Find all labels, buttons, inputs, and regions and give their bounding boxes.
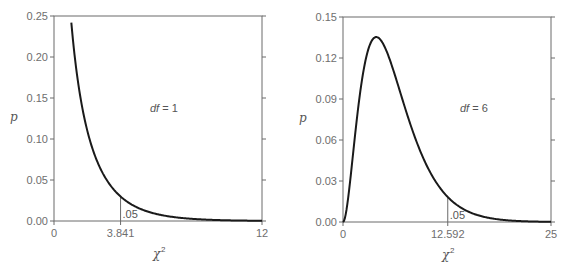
x-tick-label: 0: [340, 228, 346, 240]
y-tick-label: 0.09: [316, 93, 337, 105]
y-tick-label: 0.20: [27, 51, 48, 63]
y-axis-label: p: [10, 110, 18, 124]
y-tick-label: 0.15: [27, 92, 48, 104]
pdf-curve: [343, 37, 551, 222]
critical-area-label: .05: [123, 208, 138, 220]
pdf-curve: [71, 23, 262, 221]
y-tick-label: 0.03: [316, 175, 337, 187]
y-axis-ticks: 0.000.030.060.090.120.15: [316, 11, 555, 228]
df-value: = 1: [159, 102, 178, 114]
y-tick-label: 0.05: [27, 174, 48, 186]
x-axis-label-superscript: 2: [450, 246, 455, 255]
x-axis-label: χ 2: [152, 245, 166, 261]
y-tick-label: 0.25: [27, 10, 48, 22]
x-axis-ticks: 012.59225: [340, 222, 557, 240]
x-axis-label: χ 2: [441, 246, 455, 262]
x-tick-label: 3.841: [107, 227, 135, 239]
y-axis-label: p: [299, 111, 307, 125]
x-axis-label-chi: χ: [152, 247, 161, 261]
x-axis-label-superscript: 2: [161, 245, 166, 254]
chart-panel-df1: 0.000.050.100.150.200.25 03.84112 .05 df…: [10, 10, 268, 261]
chi-square-figure: 0.000.050.100.150.200.25 03.84112 .05 df…: [0, 0, 570, 269]
df-annotation: df = 1: [150, 102, 178, 114]
x-axis-label-chi: χ: [441, 248, 450, 262]
x-tick-label: 25: [545, 228, 557, 240]
y-tick-label: 0.15: [316, 11, 337, 23]
y-tick-label: 0.00: [27, 215, 48, 227]
x-tick-label: 0: [51, 227, 57, 239]
y-tick-label: 0.12: [316, 52, 337, 64]
plot-frame: [343, 17, 551, 222]
critical-area-label: .05: [450, 209, 465, 221]
y-tick-label: 0.06: [316, 134, 337, 146]
y-tick-label: 0.00: [316, 216, 337, 228]
x-tick-label: 12.592: [431, 228, 465, 240]
x-tick-label: 12: [256, 227, 268, 239]
x-axis-ticks: 03.84112: [51, 221, 268, 239]
df-annotation: df = 6: [460, 102, 488, 114]
chart-panel-df6: 0.000.030.060.090.120.15 012.59225 .05 d…: [299, 11, 557, 262]
y-axis-ticks: 0.000.050.100.150.200.25: [27, 10, 266, 227]
df-value: = 6: [469, 102, 488, 114]
y-tick-label: 0.10: [27, 133, 48, 145]
